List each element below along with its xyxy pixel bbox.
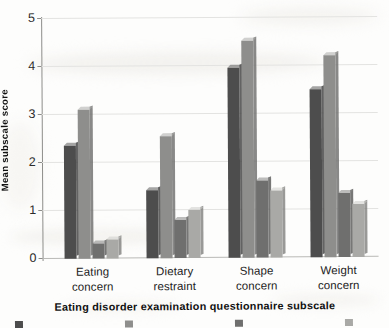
bar-face (227, 68, 240, 258)
bar (78, 110, 91, 259)
y-tick-label-3: 3 (28, 107, 35, 121)
y-tick-mark-1 (38, 210, 42, 211)
bar (323, 56, 336, 258)
bar-group (63, 19, 64, 259)
gridline-5: 5 (41, 16, 377, 19)
bar (106, 239, 118, 258)
bar (241, 41, 254, 258)
y-axis-title: Mean subscale score (0, 89, 10, 191)
bar (160, 136, 173, 258)
x-axis-group-label-line1: Eating (47, 264, 139, 279)
x-axis-group-label-line1: Dietary (129, 264, 221, 279)
bar-face (174, 220, 186, 258)
x-axis-group-label-line1: Weight (293, 263, 385, 278)
bar (188, 210, 200, 258)
bar (146, 190, 158, 258)
y-tick-label-5: 5 (28, 11, 35, 25)
paper-noise (0, 0, 387, 1)
bar-face (241, 41, 254, 258)
x-axis-title: Eating disorder examination questionnair… (1, 299, 389, 313)
bar-face (270, 190, 282, 257)
y-tick-label-0: 0 (29, 251, 36, 265)
y-tick-mark-4 (37, 66, 41, 67)
x-axis-group-label: Dietaryrestraint (129, 264, 221, 294)
bar-face (352, 204, 364, 257)
bar-face (92, 243, 104, 258)
y-tick-mark-0 (39, 258, 43, 259)
x-axis-group-label-line2: concern (293, 277, 385, 292)
bar (270, 190, 282, 257)
chart-figure: Mean subscale score 0 1 2 3 4 5 (0, 0, 389, 328)
legend-swatch (125, 320, 133, 327)
y-tick-mark-2 (38, 162, 42, 163)
bar-face (323, 56, 336, 258)
bar-face (188, 210, 200, 258)
x-axis-group-label-line2: concern (211, 278, 303, 293)
bar (174, 220, 186, 258)
bar (64, 146, 77, 259)
bar-face (310, 89, 323, 257)
x-axis-group-label-line2: concern (47, 279, 139, 294)
bar (338, 193, 350, 257)
bar-side-face (364, 200, 367, 254)
bar-face (146, 190, 158, 258)
bar-face (160, 136, 173, 258)
bar-side-face (282, 186, 285, 254)
legend (1, 319, 389, 328)
bar-group (227, 18, 228, 258)
x-axis-group-label-line1: Shape (211, 263, 303, 278)
bar-face (78, 110, 91, 259)
x-axis-labels: EatingconcernDietaryrestraintShapeconcer… (0, 0, 387, 1)
bar-face (256, 181, 268, 258)
x-axis-group-label-line2: restraint (129, 278, 221, 293)
y-tick-label-2: 2 (29, 155, 36, 169)
bar-face (64, 146, 77, 259)
bar (310, 89, 323, 257)
bar (256, 181, 268, 258)
legend-swatch (15, 321, 23, 328)
bar-group (145, 18, 146, 258)
x-axis-group-label: Weightconcern (293, 263, 385, 293)
bar (352, 204, 364, 257)
y-tick-label-1: 1 (29, 203, 36, 217)
x-axis-group-label: Shapeconcern (211, 263, 303, 293)
bar-face (106, 239, 118, 258)
bar (227, 68, 240, 258)
bar-side-face (200, 206, 203, 255)
legend-swatch (235, 320, 243, 327)
x-axis-group-label: Eatingconcern (47, 264, 139, 294)
y-tick-mark-3 (38, 114, 42, 115)
bar-face (338, 193, 350, 257)
bar (92, 243, 104, 258)
y-tick-label-4: 4 (28, 59, 35, 73)
bar-group (309, 17, 310, 257)
plot-area: 0 1 2 3 4 5 (41, 17, 378, 259)
legend-swatch (345, 319, 353, 326)
y-tick-mark-5 (37, 18, 41, 19)
